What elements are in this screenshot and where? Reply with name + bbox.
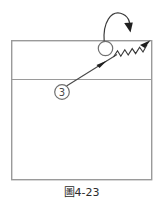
court-rectangle [12, 41, 152, 180]
figure-caption: 圖4-23 [0, 186, 163, 200]
toss-arrowhead [124, 23, 133, 33]
figure-container: 3 圖4-23 [0, 0, 163, 218]
player-marker-label: 3 [59, 87, 65, 98]
toss-curve-path [104, 13, 130, 42]
